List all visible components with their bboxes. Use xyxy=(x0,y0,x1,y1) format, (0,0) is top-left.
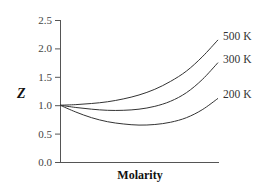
y-tick-label: 2.0 xyxy=(38,42,52,54)
x-axis-title: Molarity xyxy=(117,168,162,182)
y-tick-label: 0.0 xyxy=(38,156,52,168)
y-tick-label: 1.0 xyxy=(38,99,52,111)
series-line-200k xyxy=(60,98,218,125)
y-tick-label: 1.5 xyxy=(38,71,52,83)
series-label: 300 K xyxy=(223,53,252,65)
chart: 0.00.51.01.52.02.5 Z Molarity 500 K300 K… xyxy=(0,0,266,191)
series-group: 500 K300 K200 K xyxy=(60,30,252,125)
series-line-300k xyxy=(60,63,218,111)
y-tick-label: 2.5 xyxy=(38,14,52,26)
series-label: 500 K xyxy=(223,30,252,42)
y-axis-title: Z xyxy=(16,86,26,101)
series-label: 200 K xyxy=(223,88,252,100)
series-line-500k xyxy=(60,40,218,105)
y-tick-label: 0.5 xyxy=(38,128,52,140)
y-axis: 0.00.51.01.52.02.5 xyxy=(38,14,60,168)
